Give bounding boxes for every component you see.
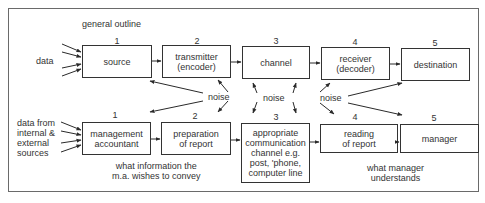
connector-arrows (0, 0, 485, 203)
